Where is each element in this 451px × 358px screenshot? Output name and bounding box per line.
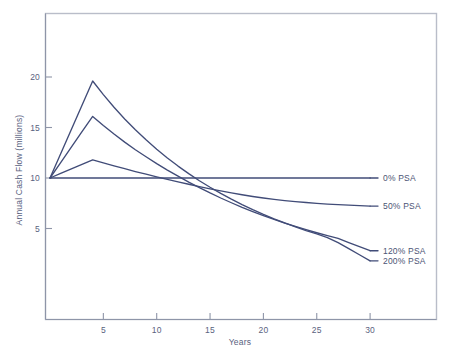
series-labels: 0% PSA50% PSA120% PSA200% PSA (383, 173, 426, 266)
series-line-120-psa (50, 116, 370, 250)
series-label-0-psa: 0% PSA (383, 173, 416, 183)
series-label-50-psa: 50% PSA (383, 201, 421, 211)
y-tick-label: 20 (30, 72, 40, 82)
x-tick-label: 25 (312, 325, 322, 335)
y-tick-label: 15 (30, 123, 40, 133)
x-axis-ticks (46, 313, 437, 320)
x-axis-title: Years (229, 337, 251, 347)
x-tick-label: 20 (258, 325, 268, 335)
series-label-200-psa: 200% PSA (383, 256, 426, 266)
y-axis-tick-labels: 5101520 (30, 72, 40, 234)
chart-container: 5101520 51015202530 Annual Cash Flow (mi… (0, 0, 451, 358)
series-lines (50, 81, 378, 261)
x-tick-label: 10 (152, 325, 162, 335)
cash-flow-line-chart: 5101520 51015202530 Annual Cash Flow (mi… (0, 0, 451, 358)
y-tick-label: 10 (30, 173, 40, 183)
x-tick-label: 5 (101, 325, 106, 335)
y-axis-title: Annual Cash Flow (millions) (14, 115, 24, 226)
plot-frame (46, 14, 437, 320)
y-tick-label: 5 (35, 224, 40, 234)
series-line-50-psa (50, 160, 370, 206)
y-axis-ticks (46, 14, 53, 320)
x-tick-label: 30 (365, 325, 375, 335)
series-label-120-psa: 120% PSA (383, 246, 426, 256)
x-axis-tick-labels: 51015202530 (101, 325, 375, 335)
x-tick-label: 15 (205, 325, 215, 335)
